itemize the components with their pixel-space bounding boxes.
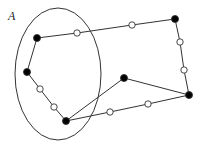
edge [77, 25, 132, 33]
solid-vertex [172, 16, 179, 23]
open-vertex [145, 101, 151, 107]
solid-vertex [186, 92, 193, 99]
solid-vertex [121, 75, 128, 82]
graph-diagram [0, 0, 200, 152]
edge [37, 33, 77, 38]
edge [66, 78, 124, 121]
region-label-a: A [8, 9, 15, 24]
solid-vertex [34, 35, 41, 42]
open-vertex [51, 104, 57, 110]
open-vertex [129, 22, 135, 28]
edge [132, 19, 175, 25]
edge [148, 95, 189, 104]
open-vertex [37, 86, 43, 92]
edge [110, 104, 148, 112]
edge [27, 38, 37, 72]
open-vertex [74, 30, 80, 36]
solid-vertex [24, 69, 31, 76]
nodes [24, 16, 193, 125]
solid-vertex [63, 118, 70, 125]
edge [124, 78, 189, 95]
open-vertex [177, 39, 183, 45]
open-vertex [107, 109, 113, 115]
open-vertex [181, 67, 187, 73]
edge [180, 42, 184, 70]
